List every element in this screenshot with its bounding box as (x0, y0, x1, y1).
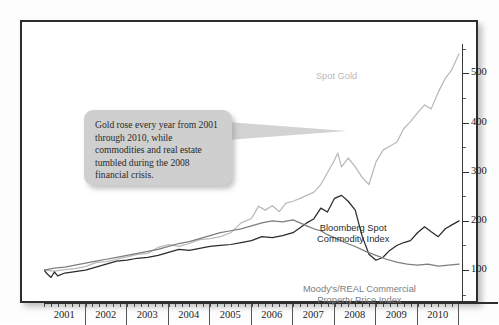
x-axis-year-cell: 2008 (335, 304, 377, 325)
series-label-line: Bloomberg Spot (317, 223, 389, 235)
x-axis-minor-tick (113, 304, 114, 307)
x-axis-minor-tick (162, 304, 163, 307)
x-axis-year-cell: 2005 (210, 304, 252, 325)
x-axis-year-cell: 2001 (44, 304, 86, 325)
x-axis-minor-tick (134, 304, 135, 307)
x-axis-minor-tick (300, 304, 301, 307)
x-axis-minor-tick (155, 304, 156, 307)
x-axis-minor-tick (293, 304, 294, 307)
y-axis-tick-mark (462, 73, 469, 74)
figure-frame: 100200300400500 200120022003200420052006… (20, 20, 478, 303)
x-axis-minor-tick (238, 304, 239, 307)
x-axis-year-cell: 2009 (376, 304, 418, 325)
y-axis-tick-label: 100 (471, 263, 487, 274)
x-axis-minor-tick (127, 304, 128, 307)
x-axis-year-cell: 2002 (86, 304, 128, 325)
y-axis-spine (462, 44, 463, 302)
x-axis-minor-tick (445, 304, 446, 307)
callout-bubble: Gold rose every year from 2001 through 2… (84, 110, 232, 185)
x-axis-minor-tick (279, 304, 280, 307)
x-axis-year-cell: 2007 (293, 304, 335, 325)
x-axis-minor-tick (424, 304, 425, 307)
x-axis-minor-tick (196, 304, 197, 307)
y-axis-tick-label: 400 (471, 116, 487, 127)
x-axis-minor-tick (252, 304, 253, 307)
x-axis-trailing-cell (459, 304, 479, 325)
x-axis-minor-tick (224, 304, 225, 307)
series-label-line: Property Price Index (303, 295, 416, 307)
x-axis-minor-tick (141, 304, 142, 307)
y-axis-tick-label: 200 (471, 214, 487, 225)
x-axis-minor-tick (182, 304, 183, 307)
x-axis-minor-tick (99, 304, 100, 307)
x-axis-year-cell: 2003 (127, 304, 169, 325)
series-label-line: Commodity Index (317, 234, 389, 246)
x-axis-year-band: 2001200220032004200520062007200820092010 (44, 302, 498, 323)
series-label-line: Spot Gold (316, 71, 357, 83)
x-axis-minor-tick (120, 304, 121, 307)
y-axis-tick-mark (462, 172, 469, 173)
x-axis-minor-tick (86, 304, 87, 307)
x-axis-minor-tick (438, 304, 439, 307)
callout-text: Gold rose every year from 2001 through 2… (95, 119, 218, 180)
x-axis-minor-tick (418, 304, 419, 307)
callout-tail (227, 122, 347, 140)
x-axis-minor-tick (106, 304, 107, 307)
series-line (44, 195, 459, 277)
x-axis-minor-tick (148, 304, 149, 307)
series-label-bloomberg-spot-commodity-index: Bloomberg SpotCommodity Index (317, 223, 389, 246)
x-axis-minor-tick (51, 304, 52, 307)
x-axis-minor-tick (272, 304, 273, 307)
x-axis-minor-tick (265, 304, 266, 307)
x-axis-minor-tick (431, 304, 432, 307)
x-axis-minor-tick (175, 304, 176, 307)
x-axis-minor-tick (58, 304, 59, 307)
y-axis-tick-mark (462, 270, 469, 271)
x-axis-minor-tick (79, 304, 80, 307)
series-label-moodys-real-commercial-property-price-index: Moody's/REAL CommercialProperty Price In… (303, 284, 416, 307)
x-axis-minor-tick (72, 304, 73, 307)
x-axis-minor-tick (189, 304, 190, 307)
x-axis-minor-tick (65, 304, 66, 307)
x-axis-minor-tick (203, 304, 204, 307)
x-axis-year-cell: 2004 (169, 304, 211, 325)
x-axis-minor-tick (258, 304, 259, 307)
x-axis-minor-tick (92, 304, 93, 307)
x-axis-minor-tick (44, 304, 45, 307)
x-axis-minor-tick (245, 304, 246, 307)
x-axis-minor-tick (210, 304, 211, 307)
y-axis-tick-label: 500 (471, 66, 487, 77)
series-label-spot-gold: Spot Gold (316, 71, 357, 83)
x-axis-minor-tick (231, 304, 232, 307)
x-axis-minor-tick (217, 304, 218, 307)
x-axis-year-cell: 2006 (252, 304, 294, 325)
x-axis-year-cell: 2010 (418, 304, 460, 325)
series-label-line: Moody's/REAL Commercial (303, 284, 416, 296)
y-axis-tick-mark (462, 123, 469, 124)
y-axis-tick-mark (462, 221, 469, 222)
x-axis-minor-tick (286, 304, 287, 307)
x-axis-minor-tick (452, 304, 453, 307)
x-axis-minor-tick (169, 304, 170, 307)
y-axis-tick-label: 300 (471, 165, 487, 176)
